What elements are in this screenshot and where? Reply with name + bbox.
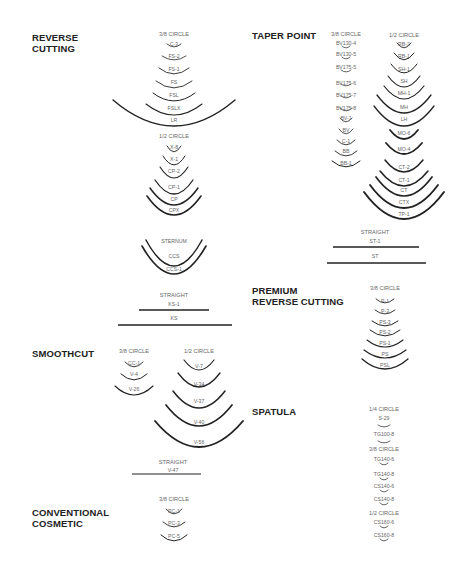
needle-label: C-1 xyxy=(342,138,350,144)
needle-label: CT-1 xyxy=(398,177,409,183)
group-caption: 3/8 CIRCLE xyxy=(119,348,149,354)
needle-label: CPX xyxy=(169,207,180,213)
needle-label: TG100-8 xyxy=(374,431,394,437)
needle-label: BV175-8 xyxy=(336,105,356,111)
needle-label: CS160-8 xyxy=(374,532,394,538)
needle-label: BB-1 xyxy=(340,160,352,166)
needle-arc xyxy=(380,478,388,480)
needle-label: FSLX xyxy=(168,105,181,111)
group-caption: STRAIGHT xyxy=(159,459,187,465)
group-caption: STRAIGHT xyxy=(160,292,188,298)
needle-arc xyxy=(380,539,388,541)
heading-taper-point: TAPER POINT xyxy=(252,30,316,41)
needle-label: CT-2 xyxy=(398,164,409,170)
heading-line: REVERSE CUTTING xyxy=(252,296,344,307)
heading-conventional-cosmetic: CONVENTIONAL COSMETIC xyxy=(32,507,109,529)
needle-label: V-47 xyxy=(168,467,179,473)
needle-label: V-7 xyxy=(195,363,203,369)
needle-label: ST xyxy=(372,253,379,259)
needle-label: X-1 xyxy=(170,156,178,162)
group-caption: 1/2 CIRCLE xyxy=(159,133,189,139)
needle-label: ST-1 xyxy=(370,238,381,244)
group-caption: 3/8 CIRCLE xyxy=(159,496,189,502)
needle-label: BV175-7 xyxy=(336,92,356,98)
needle-label: PS-1 xyxy=(379,340,391,346)
needle-label: KS-1 xyxy=(168,301,180,307)
needle-label: MO-4 xyxy=(398,146,411,152)
needle-label: LR xyxy=(171,117,178,123)
needle-label: SH-1 xyxy=(398,66,410,72)
needle-arc xyxy=(380,526,388,528)
needle-label: V-37 xyxy=(194,398,205,404)
needle-label: CS140-8 xyxy=(374,496,394,502)
needle-label: CS140-6 xyxy=(374,483,394,489)
needle-label: P-3 xyxy=(381,308,389,314)
needle-label: PS-3 xyxy=(379,319,391,325)
needle-label: MH xyxy=(400,104,408,110)
needle-label: BV130-4 xyxy=(336,40,356,46)
needle-label: V-56 xyxy=(194,439,205,445)
needle-label: CP xyxy=(170,196,177,202)
needle-label: TG140-8 xyxy=(374,471,394,477)
needle-label: V-26 xyxy=(129,386,140,392)
needle-label: CP-2 xyxy=(168,168,180,174)
needle-label: PC-3 xyxy=(168,520,180,526)
needle-label: KS xyxy=(171,315,178,321)
needle-label: PS xyxy=(382,351,389,357)
needle-label: C-3 xyxy=(170,41,178,47)
heading-premium-reverse-cutting: PREMIUM REVERSE CUTTING xyxy=(252,285,344,307)
needle-label: V-40 xyxy=(194,419,205,425)
needle-label: CS160-6 xyxy=(374,519,394,525)
needle-label: PSL xyxy=(380,362,390,368)
heading-line: PREMIUM xyxy=(252,285,344,296)
group-caption: 3/8 CIRCLE xyxy=(369,446,399,452)
needle-label: BV130-5 xyxy=(336,51,356,57)
heading-spatula: SPATULA xyxy=(252,406,296,417)
needle-label: PC-1 xyxy=(168,508,180,514)
needle-arc xyxy=(378,425,390,427)
needle-label: MO-6 xyxy=(398,130,411,136)
needle-label: TP-1 xyxy=(398,211,409,217)
heading-line: CUTTING xyxy=(32,43,78,54)
needle-label: BV-1 xyxy=(340,115,351,121)
group-caption: 1/2 CIRCLE xyxy=(369,510,399,516)
needle-label: FS xyxy=(171,79,178,85)
needle-label: RB-2 xyxy=(398,41,410,47)
needle-label: S-29 xyxy=(379,415,390,421)
needle-label: BB xyxy=(343,148,350,154)
needle-label: MH-1 xyxy=(398,90,411,96)
needle-label: BV175-6 xyxy=(336,80,356,86)
group-caption: 3/8 CIRCLE xyxy=(331,31,361,37)
needle-arc xyxy=(380,463,388,465)
needle-label: BV175-5 xyxy=(336,64,356,70)
group-caption: 1/2 CIRCLE xyxy=(184,348,214,354)
needle-arc xyxy=(380,490,388,492)
needle-arc xyxy=(378,441,390,443)
needle-label: CTX xyxy=(399,199,409,205)
needle-label: RB-1 xyxy=(398,53,410,59)
needle-label: BV xyxy=(343,127,350,133)
needle-label: X-8 xyxy=(170,144,178,150)
needle-label: CT xyxy=(401,187,408,193)
needle-arc xyxy=(342,46,350,48)
needle-label: CP-1 xyxy=(168,184,180,190)
heading-line: CONVENTIONAL xyxy=(32,507,109,518)
heading-smoothcut: SMOOTHCUT xyxy=(32,348,94,359)
needle-label: STERNUM xyxy=(161,238,187,244)
needle-label: PS-2 xyxy=(379,329,391,335)
group-caption: 1/2 CIRCLE xyxy=(389,32,419,38)
needle-label: PC-5 xyxy=(168,533,180,539)
needle-label: FSL xyxy=(169,92,179,98)
needle-arc xyxy=(341,70,351,72)
group-caption: STRAIGHT xyxy=(361,229,389,235)
needle-label: FS-1 xyxy=(168,66,179,72)
needle-label: CCS-1 xyxy=(166,266,182,272)
needle-label: SH xyxy=(400,78,407,84)
needle-label: P-1 xyxy=(381,298,389,304)
needle-label: TG140-6 xyxy=(374,456,394,462)
group-caption: 3/8 CIRCLE xyxy=(370,285,400,291)
needle-label: V-4 xyxy=(130,371,138,377)
needle-label: V-34 xyxy=(194,381,205,387)
heading-line: COSMETIC xyxy=(32,518,109,529)
heading-line: REVERSE xyxy=(32,32,78,43)
